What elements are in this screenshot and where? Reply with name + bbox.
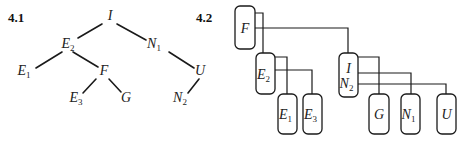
edge-U-N2 — [188, 79, 199, 93]
box-label-F-0: F — [240, 21, 250, 36]
node-G: G — [121, 90, 131, 105]
node-E1: E1 — [16, 63, 30, 80]
connector-E2-E1 — [275, 57, 287, 94]
box-E3: E3 — [303, 94, 322, 134]
node-N1: N1 — [146, 36, 161, 53]
node-N2: N2 — [172, 90, 187, 107]
edge-E2-E1 — [36, 52, 62, 68]
edge-I-N1 — [117, 24, 146, 40]
edge-I-E2 — [78, 24, 102, 38]
node-F: F — [99, 63, 109, 78]
node-E2: E2 — [60, 36, 74, 53]
box-E1: E1 — [278, 94, 297, 134]
box-F: F — [235, 6, 255, 49]
edge-F-G — [109, 79, 121, 92]
connector-F-E2 — [255, 13, 263, 53]
tree-4-1: IE2N1E1FUE3GN2 — [16, 8, 205, 107]
box-E2: E2 — [256, 53, 275, 94]
edge-E2-F — [73, 52, 98, 67]
box-IN2: IN2 — [339, 53, 358, 97]
edge-N1-U — [169, 52, 194, 68]
node-E3: E3 — [68, 90, 83, 107]
connector-IN2-U — [358, 84, 446, 94]
connector-F-IN2 — [245, 28, 348, 53]
edge-F-E3 — [83, 79, 96, 93]
box-G: G — [369, 94, 389, 134]
box-label-U-0: U — [441, 107, 452, 122]
box-N1: N1 — [401, 94, 420, 134]
tree-4-2: FE2IN2E1E3GN1U — [235, 6, 456, 134]
box-label-G-0: G — [374, 107, 384, 122]
box-U: U — [437, 94, 456, 134]
tree-diagrams: IE2N1E1FUE3GN2 FE2IN2E1E3GN1U — [0, 0, 466, 143]
connector-IN2-G — [358, 57, 379, 94]
node-U: U — [195, 63, 206, 78]
node-I: I — [107, 8, 114, 23]
